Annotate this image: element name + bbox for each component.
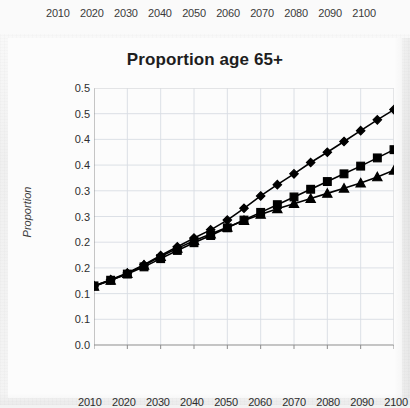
y-tick-label: 0.5 (52, 108, 90, 120)
data-marker-square (340, 170, 348, 178)
x-tick-label: 2020 (112, 396, 136, 408)
x-tick-label: 2070 (282, 396, 306, 408)
x-tick-label: 2060 (248, 396, 272, 408)
top-strip-tick-label: 2040 (148, 7, 172, 19)
data-marker-square (373, 154, 381, 162)
data-marker-triangle (373, 172, 382, 181)
top-strip-tick-label: 2060 (216, 7, 240, 19)
series-diamond (94, 105, 394, 290)
y-axis-title: Proportion (21, 172, 33, 252)
y-tick-label: 0.2 (52, 236, 90, 248)
y-tick-label: 0.4 (52, 133, 90, 145)
x-tick-label: 2100 (384, 396, 408, 408)
x-tick-label: 2050 (214, 396, 238, 408)
x-tick-label: 2090 (350, 396, 374, 408)
y-tick-label: 0.5 (52, 82, 90, 94)
data-series-layer (94, 105, 394, 290)
series-triangle (94, 166, 394, 291)
y-tick-label: 0.4 (52, 159, 90, 171)
x-tick-label: 2080 (316, 396, 340, 408)
top-strip-tick-label: 2050 (182, 7, 206, 19)
top-strip-tick-label: 2080 (284, 7, 308, 19)
data-marker-diamond (340, 137, 348, 145)
plot-area (94, 88, 394, 383)
chart-svg (94, 88, 394, 383)
y-axis-tick-labels: 0.50.50.40.40.30.30.20.20.10.10.0 (52, 81, 90, 339)
y-tick-label: 0.3 (52, 211, 90, 223)
cropped-figure-above-strip: 2010202020302040205020602070208020902100 (0, 0, 410, 34)
top-strip-tick-label: 2030 (114, 7, 138, 19)
data-marker-diamond (323, 148, 331, 156)
top-strip-tick-label: 2070 (250, 7, 274, 19)
data-marker-square (390, 146, 394, 154)
y-tick-label: 0.1 (52, 313, 90, 325)
data-marker-square (323, 178, 331, 186)
x-axis-tick-labels: 2010202020302040205020602070208020902100 (78, 396, 408, 408)
data-marker-diamond (356, 126, 364, 134)
data-marker-square (307, 185, 315, 193)
top-strip-tick-label: 2100 (352, 7, 376, 19)
x-tick-label: 2010 (78, 396, 102, 408)
y-tick-label: 0.3 (52, 185, 90, 197)
y-tick-label: 0.0 (52, 339, 90, 351)
data-marker-square (357, 162, 365, 170)
top-strip-tick-label: 2010 (46, 7, 70, 19)
y-tick-label: 0.1 (52, 288, 90, 300)
top-strip-axis-tick-labels: 2010202020302040205020602070208020902100 (46, 7, 376, 19)
data-marker-diamond (373, 116, 381, 124)
y-tick-label: 0.2 (52, 262, 90, 274)
series-line-diamond (94, 110, 394, 286)
top-strip-tick-label: 2090 (318, 7, 342, 19)
x-tick-label: 2040 (180, 396, 204, 408)
chart-figure: Proportion age 65+ Proportion 0.50.50.40… (8, 38, 402, 398)
chart-title: Proportion age 65+ (8, 50, 402, 70)
top-strip-tick-label: 2020 (80, 7, 104, 19)
data-marker-triangle (389, 166, 394, 175)
x-tick-label: 2030 (146, 396, 170, 408)
